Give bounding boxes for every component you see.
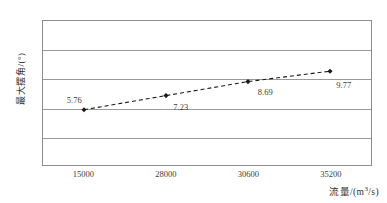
data-point-marker <box>81 107 86 112</box>
data-point-marker <box>327 69 332 74</box>
plot-area: 5.767.238.699.77 <box>42 20 372 166</box>
series-line <box>43 21 371 165</box>
series-polyline <box>84 71 330 109</box>
y-axis-title-text: 最大摆角/(°) <box>16 52 26 104</box>
x-axis-title-main: 流量/(m <box>329 187 364 197</box>
x-axis-tick-label: 30600 <box>238 169 259 179</box>
x-axis-title-tail: /s) <box>368 187 379 197</box>
data-point-marker <box>163 93 168 98</box>
data-point-label: 7.23 <box>173 102 188 112</box>
chart-figure: 最大摆角/(°) 03691215 5.767.238.699.77 15000… <box>0 0 387 203</box>
x-axis-tick-label: 35200 <box>320 169 341 179</box>
series-markers <box>81 69 332 113</box>
x-axis-tick-label: 28000 <box>155 169 176 179</box>
y-axis-title: 最大摆角/(°) <box>14 19 27 139</box>
data-point-marker <box>245 79 250 84</box>
data-point-label: 5.76 <box>67 95 82 105</box>
x-axis-tick-label: 15000 <box>73 169 94 179</box>
data-point-label: 8.69 <box>258 87 273 97</box>
x-axis-title: 流量/(m3/s) <box>329 184 379 198</box>
data-point-label: 9.77 <box>336 80 351 90</box>
